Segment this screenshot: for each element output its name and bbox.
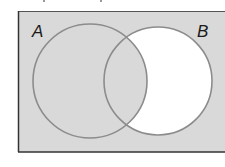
venn-diagram: A B — [0, 0, 225, 167]
cropped-text-remnant — [100, 0, 102, 2]
set-a-label: A — [31, 22, 43, 41]
set-b-label: B — [197, 22, 208, 41]
cropped-text-remnant — [43, 0, 45, 2]
